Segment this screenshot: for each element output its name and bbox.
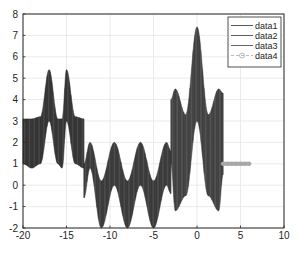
y-tick-label: 4 xyxy=(12,94,18,105)
y-tick-label: -2 xyxy=(9,223,18,234)
y-tick-label: 5 xyxy=(12,73,18,84)
legend[interactable]: data1 data2 data3 data4 xyxy=(228,17,281,67)
circle-marker xyxy=(234,162,238,166)
y-tick-label: 2 xyxy=(12,137,18,148)
y-tick-label: -1 xyxy=(9,201,18,212)
legend-label: data3 xyxy=(255,41,278,51)
y-tick-label: 8 xyxy=(12,9,18,20)
circle-marker xyxy=(247,162,251,166)
x-tick-label: 10 xyxy=(278,230,290,241)
legend-label: data2 xyxy=(255,31,278,41)
series-data4 xyxy=(221,162,251,166)
circle-marker xyxy=(243,162,247,166)
chart: -20-15-10-50510 -2-1012345678 data1 data… xyxy=(0,0,301,255)
circle-marker xyxy=(226,162,230,166)
y-tick-label: 6 xyxy=(12,51,18,62)
x-tick-label: -10 xyxy=(103,230,118,241)
y-tick-label: 7 xyxy=(12,30,18,41)
circle-marker xyxy=(221,162,225,166)
y-tick-label: 0 xyxy=(12,180,18,191)
x-tick-label: -15 xyxy=(59,230,74,241)
x-tick-label: -5 xyxy=(149,230,158,241)
y-tick-label: 1 xyxy=(12,158,18,169)
x-tick-label: 0 xyxy=(194,230,200,241)
x-tick-label: 5 xyxy=(238,230,244,241)
circle-marker xyxy=(230,162,234,166)
circle-marker xyxy=(239,162,243,166)
x-tick-label: -20 xyxy=(16,230,31,241)
legend-label: data4 xyxy=(255,51,278,61)
y-tick-label: 3 xyxy=(12,116,18,127)
legend-label: data1 xyxy=(255,21,278,31)
